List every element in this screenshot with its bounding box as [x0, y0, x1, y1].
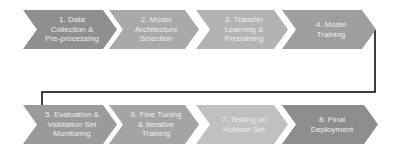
step-1-data-collection: 1. Data Collection & Pre-processing — [23, 10, 117, 49]
step-6-label: 6. Fine Tuning & Iterative Training — [119, 110, 190, 139]
step-3-label: 3. Transfer Learning & Pretraining — [213, 15, 272, 44]
step-5-evaluation: 5. Evaluation & Validation Set Monitorin… — [23, 105, 117, 144]
step-8-label: 8. Final Deployment — [299, 115, 362, 134]
step-4-label: 4. Model Training — [304, 20, 355, 39]
step-4-model-training: 4. Model Training — [282, 10, 376, 49]
step-2-label: 2. Model Architecture Selection — [123, 15, 186, 44]
step-5-label: 5. Evaluation & Validation Set Monitorin… — [33, 110, 107, 139]
step-8-deployment: 8. Final Deployment — [282, 105, 378, 144]
step-1-label: 1. Data Collection & Pre-processing — [33, 15, 107, 44]
step-7-label: 7. Testing on Holdout Set — [209, 115, 274, 134]
